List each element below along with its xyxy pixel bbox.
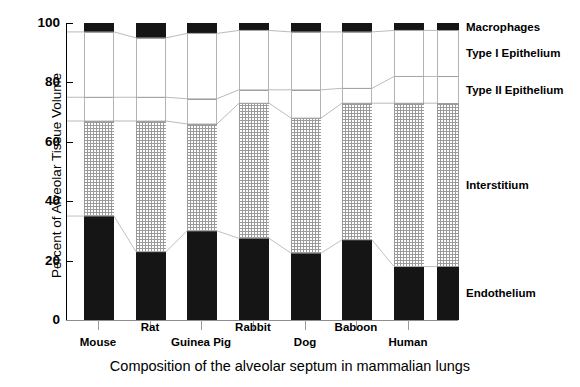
segment-type-1-epithelium [136,38,166,97]
legend-divider-1 [437,76,459,77]
segment-endothelium [239,238,269,320]
segment-endothelium [291,253,321,320]
chart-caption: Composition of the alveolar septum in ma… [0,358,580,374]
bar-guinea-pig [187,23,217,320]
bar-edge-right [216,33,217,124]
segment-divider-1 [342,88,372,89]
segment-type-1-epithelium [342,32,372,88]
y-axis-title: Percent of Alveolar Tissue Volume [49,26,64,326]
segment-interstitium [239,103,269,238]
x-axis-label-rat: Rat [141,321,160,333]
legend-swatch-type-2-epithelium [437,76,459,103]
segment-interstitium [291,118,321,253]
segment-divider-2 [342,32,372,33]
bar-edge-right [423,30,424,103]
segment-type-2-epithelium [136,97,166,121]
segment-interstitium [342,103,372,240]
legend-label-type-i-epithelium: Type I Epithelium [466,47,560,59]
segment-divider-0 [84,121,114,122]
y-tick-label-20: 20 [45,254,60,268]
legend-edge-left [437,30,438,103]
segment-divider-0 [342,103,372,104]
segment-type-1-epithelium [239,30,269,89]
y-tick-mark-40 [67,201,73,202]
bar-edge-left [187,33,188,124]
segment-type-2-epithelium [84,97,114,121]
segment-endothelium [84,216,114,320]
segment-macrophages [394,23,424,30]
segment-endothelium [187,231,217,320]
legend-label-type-ii-epithelium: Type II Epithelium [466,84,564,96]
y-tick-label-80: 80 [45,76,60,90]
legend-edge-right [458,30,459,103]
bar-edge-right [268,30,269,103]
bar-edge-left [84,32,85,121]
legend-divider-2 [437,30,459,31]
bar-edge-left [394,30,395,103]
legend-label-macrophages: Macrophages [466,21,540,33]
bar-edge-right [165,38,166,121]
y-tick-mark-20 [67,261,73,262]
segment-divider-1 [84,97,114,98]
y-tick-mark-60 [67,142,73,143]
legend-swatch-column [437,23,459,320]
segment-interstitium [187,124,217,231]
segment-macrophages [342,23,372,32]
bar-edge-right [113,32,114,121]
segment-macrophages [136,23,166,38]
segment-divider-1 [394,76,424,77]
segment-macrophages [84,23,114,32]
bar-rat [136,23,166,320]
y-tick-mark-100 [67,23,73,24]
chart-figure: Percent of Alveolar Tissue Volume 100806… [0,0,580,387]
segment-divider-1 [239,90,269,91]
segment-type-1-epithelium [84,32,114,97]
segment-divider-2 [291,32,321,33]
x-tick-mark-2 [201,320,202,330]
segment-macrophages [291,23,321,32]
x-axis-label-mouse: Mouse [80,336,116,348]
segment-divider-2 [84,32,114,33]
x-tick-mark-6 [408,320,409,330]
segment-endothelium [136,252,166,320]
segment-divider-2 [136,38,166,39]
legend-label-endothelium: Endothelium [466,287,536,299]
segment-macrophages [187,23,217,33]
x-axis-label-human: Human [389,336,428,348]
segment-type-2-epithelium [239,90,269,103]
bar-dog [291,23,321,320]
y-tick-label-0: 0 [52,313,60,327]
segment-macrophages [239,23,269,30]
bar-human [394,23,424,320]
segment-endothelium [394,267,424,320]
segment-divider-2 [187,33,217,34]
segment-interstitium [84,121,114,216]
y-tick-mark-80 [67,82,73,83]
bar-rabbit [239,23,269,320]
segment-divider-2 [394,30,424,31]
segment-type-2-epithelium [187,99,217,124]
segment-type-1-epithelium [394,30,424,76]
plot-area: 100806040200 [66,23,458,320]
segment-divider-0 [187,124,217,125]
x-axis-label-dog: Dog [294,336,316,348]
segment-type-2-epithelium [394,76,424,103]
legend-divider-0 [437,103,459,104]
y-tick-label-40: 40 [45,194,60,208]
segment-interstitium [136,121,166,252]
bar-mouse [84,23,114,320]
legend-swatch-macrophages [437,23,459,30]
segment-type-1-epithelium [291,32,321,90]
bar-edge-left [136,38,137,121]
segment-type-1-epithelium [187,33,217,98]
y-tick-label-100: 100 [37,16,60,30]
segment-endothelium [342,240,372,320]
segment-divider-0 [394,103,424,104]
bar-edge-right [320,32,321,118]
segment-divider-1 [187,99,217,100]
bar-edge-right [371,32,372,103]
segment-divider-0 [136,121,166,122]
x-axis-label-baboon: Baboon [335,321,378,333]
segment-type-2-epithelium [342,88,372,103]
segment-type-2-epithelium [291,90,321,118]
